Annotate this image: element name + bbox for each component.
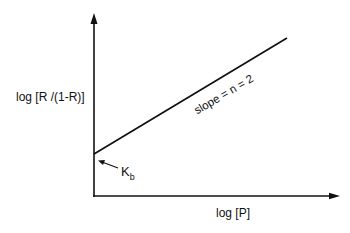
intercept-label: Kb: [121, 164, 135, 182]
hill-plot-line: [94, 38, 287, 154]
y-axis-label: log [R /(1-R)]: [16, 90, 85, 104]
x-axis-label: log [P]: [216, 206, 250, 220]
y-axis-arrow-icon: [91, 13, 98, 24]
arrow-head-icon: [98, 160, 105, 165]
kb-text: K: [121, 164, 130, 179]
y-axis: [91, 13, 98, 197]
x-axis-arrow-icon: [329, 193, 340, 199]
diagram-canvas: [0, 0, 350, 233]
kb-subscript: b: [130, 172, 135, 182]
intercept-arrow: [98, 160, 118, 168]
x-axis: [93, 193, 340, 199]
